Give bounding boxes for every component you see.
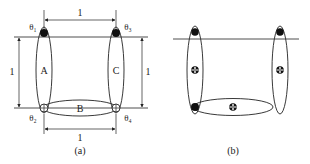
panel-b: (b) xyxy=(173,26,299,157)
dimension-top-label: 1 xyxy=(78,7,83,18)
ellipse-b-label: B xyxy=(77,103,84,114)
theta-1-label: θ₁ xyxy=(29,22,36,32)
ellipse-a-label: A xyxy=(40,65,48,76)
dimension-bottom-label: 1 xyxy=(78,132,83,143)
theta-3-label: θ₃ xyxy=(124,22,131,32)
filled-site-icon xyxy=(191,28,199,36)
theta-4-label: θ₄ xyxy=(124,113,131,123)
orbital-icon xyxy=(276,66,284,74)
theta-2-label: θ₂ xyxy=(29,113,36,123)
filled-site-icon xyxy=(191,103,199,111)
filled-site-icon xyxy=(40,29,48,37)
orbital-icon xyxy=(229,103,237,111)
filled-site-icon xyxy=(112,29,120,37)
diagram-canvas: 1 1 1 1 A C B θ₁ xyxy=(0,0,310,164)
orbital-icon xyxy=(191,66,199,74)
dimension-left-label: 1 xyxy=(10,66,15,77)
empty-site-icon xyxy=(40,104,48,112)
ellipse-c-label: C xyxy=(113,65,120,76)
panel-a-caption: (a) xyxy=(74,145,85,157)
empty-site-icon xyxy=(112,104,120,112)
dimension-right-label: 1 xyxy=(146,66,151,77)
panel-a: 1 1 1 1 A C B θ₁ xyxy=(10,7,151,157)
panel-b-caption: (b) xyxy=(227,145,239,157)
filled-site-icon xyxy=(276,28,284,36)
